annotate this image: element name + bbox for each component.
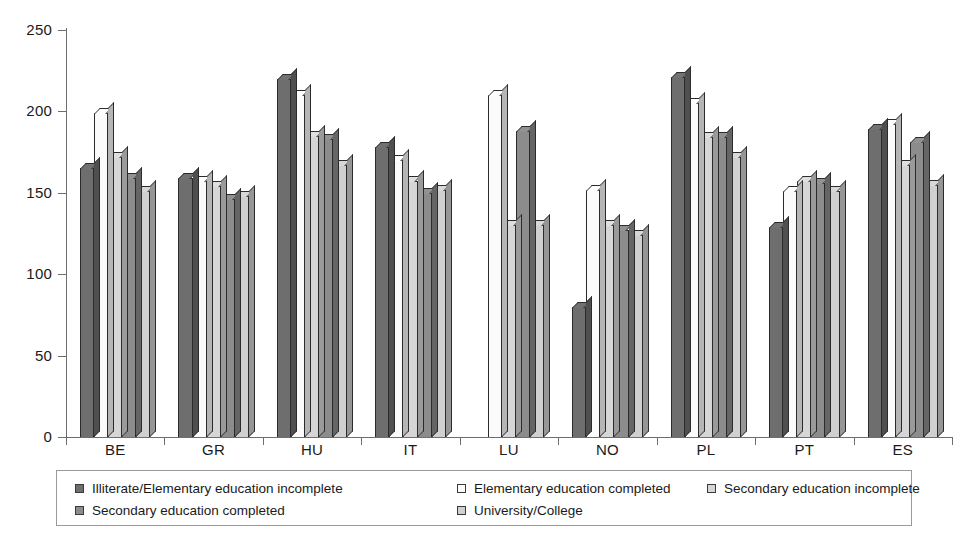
bar-group-bars (375, 30, 445, 437)
x-axis-category-label: HU (263, 441, 361, 459)
bar-group (868, 30, 938, 437)
bar-group-bars (277, 30, 347, 437)
bar-side-face (235, 188, 241, 437)
legend-swatch (75, 506, 84, 515)
bar-side-face (840, 180, 846, 437)
bar-group-bars (868, 30, 938, 437)
plot-area (66, 30, 952, 437)
x-axis-category-label: IT (361, 441, 459, 459)
bar-group (474, 30, 544, 437)
bar-column[interactable] (769, 30, 783, 437)
x-axis-category-label: ES (854, 441, 952, 459)
x-axis-category-label: BE (66, 441, 164, 459)
legend-label: Illiterate/Elementary education incomple… (92, 481, 343, 496)
bar-group-bars (80, 30, 150, 437)
legend-swatch (75, 484, 84, 493)
bar-side-face (910, 154, 916, 437)
x-axis-group-tick (952, 437, 953, 445)
bar-group-bars (671, 30, 741, 437)
bar-column[interactable] (671, 30, 685, 437)
bar-group (80, 30, 150, 437)
bar-group (277, 30, 347, 437)
bar[interactable] (488, 95, 502, 437)
bar-side-face (305, 84, 311, 437)
bar-side-face (614, 214, 620, 437)
bar[interactable] (80, 168, 94, 437)
bar-side-face (516, 214, 522, 437)
bar-column[interactable] (80, 30, 94, 437)
bar-group (769, 30, 839, 437)
bar-side-face (403, 149, 409, 437)
x-axis-category-label: NO (558, 441, 656, 459)
bar-side-face (150, 180, 156, 437)
x-axis-category-label: LU (460, 441, 558, 459)
bar[interactable] (868, 129, 882, 437)
legend-swatch (457, 484, 466, 493)
bar-side-face (938, 174, 944, 437)
bar-column[interactable] (178, 30, 192, 437)
bar-group-bars (572, 30, 642, 437)
bar-column[interactable] (277, 30, 291, 437)
legend-item[interactable]: University/College (457, 503, 583, 518)
bar-side-face (291, 68, 297, 437)
bar-side-face (502, 84, 508, 437)
bar-side-face (530, 120, 536, 437)
bar-group (572, 30, 642, 437)
bar-side-face (94, 157, 100, 437)
bar-side-face (797, 180, 803, 437)
bar-side-face (825, 172, 831, 437)
bar-side-face (389, 136, 395, 437)
chart-figure: 050100150200250 BEGRHUITLUNOPLPTES Illit… (0, 0, 968, 552)
bar-side-face (249, 185, 255, 437)
bar-side-face (108, 102, 114, 437)
bar-column[interactable] (488, 30, 502, 437)
y-axis-tick-label: 150 (0, 185, 52, 200)
bar-side-face (347, 154, 353, 437)
legend-label: Secondary education incomplete (724, 481, 920, 496)
y-axis-tick-label: 0 (0, 429, 52, 444)
bar-group (671, 30, 741, 437)
x-axis-category-label: GR (164, 441, 262, 459)
y-axis-tick-label: 50 (0, 348, 52, 363)
bar-group-bars (474, 30, 544, 437)
legend-label: Secondary education completed (92, 503, 285, 518)
y-axis-tick-label: 250 (0, 22, 52, 37)
bar-side-face (319, 125, 325, 437)
bar-side-face (741, 146, 747, 437)
bar-side-face (418, 170, 424, 437)
y-axis-tick-label: 100 (0, 266, 52, 281)
bar-side-face (685, 66, 691, 437)
x-axis-category-label: PL (657, 441, 755, 459)
bar[interactable] (277, 79, 291, 437)
bar-side-face (122, 146, 128, 437)
legend-item[interactable]: Illiterate/Elementary education incomple… (75, 481, 343, 496)
bar-side-face (643, 224, 649, 437)
bar-side-face (727, 126, 733, 437)
bar[interactable] (769, 227, 783, 437)
bar-group-bars (178, 30, 248, 437)
bar-column[interactable] (572, 30, 586, 437)
bar-side-face (333, 128, 339, 437)
bar[interactable] (178, 178, 192, 437)
bar-side-face (600, 179, 606, 437)
chart-legend: Illiterate/Elementary education incomple… (56, 470, 912, 526)
bar-column[interactable] (868, 30, 882, 437)
bar-column[interactable] (375, 30, 389, 437)
bar[interactable] (375, 147, 389, 437)
legend-item[interactable]: Elementary education completed (457, 481, 671, 496)
bar-side-face (136, 167, 142, 437)
bar-side-face (811, 170, 817, 437)
bar-side-face (699, 92, 705, 437)
bar-side-face (629, 219, 635, 437)
legend-label: University/College (474, 503, 583, 518)
legend-item[interactable]: Secondary education incomplete (707, 481, 920, 496)
bar-side-face (896, 113, 902, 437)
bar-side-face (924, 131, 930, 437)
bar[interactable] (572, 307, 586, 437)
bar-side-face (221, 175, 227, 437)
bar[interactable] (671, 77, 685, 437)
bar-column[interactable] (474, 30, 488, 437)
bar-side-face (207, 170, 213, 437)
legend-item[interactable]: Secondary education completed (75, 503, 285, 518)
legend-label: Elementary education completed (474, 481, 671, 496)
